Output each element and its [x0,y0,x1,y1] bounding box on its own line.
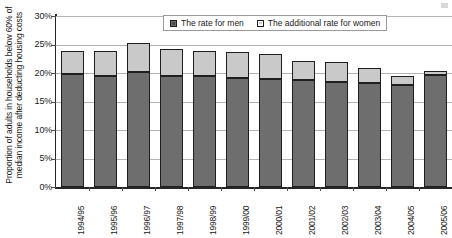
y-axis-tick-mark [51,102,56,103]
plot-area [56,16,452,187]
bar-segment-men [325,82,348,187]
x-axis-tick-mark [419,187,420,191]
x-axis-tick-mark [353,187,354,191]
y-axis-tick-mark [51,159,56,160]
y-axis-tick-label: 20% [24,69,52,78]
bar-segment-women [259,54,282,79]
bar-group [61,16,84,187]
bar-group [160,16,183,187]
bar-group [127,16,150,187]
bar-group [94,16,117,187]
bar-segment-women [94,51,117,76]
corner-artifact [441,3,448,8]
legend-label-women: The additional rate for women [268,19,380,28]
bar-segment-men [358,83,381,187]
x-axis-tick-label: 2003/04 [374,206,383,235]
bar-group [193,16,216,187]
bar-segment-women [424,71,447,75]
x-axis-tick-label: 1999/00 [242,206,251,235]
x-axis-tick-mark [287,187,288,191]
bar-segment-women [292,61,315,80]
y-axis-tick-label: 0% [24,183,52,192]
y-axis-tick-mark [51,16,56,17]
x-axis-tick-labels: 1994/951995/961996/971997/981998/991999/… [56,191,452,238]
y-axis-tick-label: 5% [24,154,52,163]
y-axis-tick-label: 30% [24,12,52,21]
x-axis-tick-label: 2000/01 [275,206,284,235]
bar-segment-women [226,52,249,77]
y-axis-tick-mark [51,73,56,74]
x-axis-tick-label: 2002/03 [341,206,350,235]
bar-segment-women [193,51,216,77]
bar-segment-women [127,43,150,72]
filled-dark-square-icon [170,20,177,27]
bar-group [292,16,315,187]
x-axis-tick-label: 2001/02 [308,206,317,235]
y-axis-tick-labels: 0%5%10%15%20%25%30% [22,0,52,238]
bar-group [226,16,249,187]
bar-segment-women [391,76,414,85]
x-axis-tick-mark [221,187,222,191]
bar-segment-men [391,85,414,187]
y-axis-tick-label: 10% [24,126,52,135]
y-axis-tick-mark [51,45,56,46]
x-axis-tick-label: 1996/97 [143,206,152,235]
x-axis-tick-label: 1998/99 [209,206,218,235]
bar-group [325,16,348,187]
x-axis-tick-label: 2004/05 [407,206,416,235]
bar-segment-men [193,76,216,187]
x-axis-tick-label: 2005/06 [440,206,449,235]
bar-segment-men [226,78,249,187]
y-axis-tick-label: 15% [24,97,52,106]
bar-segment-men [94,76,117,187]
y-axis-tick-mark [51,130,56,131]
bar-group [259,16,282,187]
x-axis-tick-label: 1995/96 [110,206,119,235]
bar-segment-women [358,68,381,82]
bar-segment-women [325,62,348,82]
legend-label-men: The rate for men [181,19,244,28]
bar-group [358,16,381,187]
bar-group [391,16,414,187]
x-axis-tick-mark [122,187,123,191]
x-axis-tick-mark [89,187,90,191]
bar-group [424,16,447,187]
bar-segment-men [61,74,84,187]
legend: The rate for men The additional rate for… [163,15,387,31]
x-axis-tick-mark [188,187,189,191]
x-axis-tick-label: 1994/95 [77,206,86,235]
y-axis-tick-mark [51,187,56,188]
x-axis-tick-mark [386,187,387,191]
bar-segment-women [61,51,84,74]
bar-segment-men [259,79,282,187]
x-axis-tick-mark [320,187,321,191]
bar-segment-men [424,75,447,187]
x-axis-tick-label: 1997/98 [176,206,185,235]
legend-item-men: The rate for men [170,19,244,28]
bar-segment-men [292,80,315,187]
legend-item-women: The additional rate for women [257,19,380,28]
y-axis-tick-label: 25% [24,40,52,49]
bar-segment-men [127,72,150,187]
x-axis-tick-mark [254,187,255,191]
bar-segment-men [160,76,183,187]
bar-segment-women [160,49,183,77]
x-axis-tick-mark [155,187,156,191]
filled-light-square-icon [257,20,264,27]
bar-chart: Proportion of adults in households below… [0,0,452,238]
